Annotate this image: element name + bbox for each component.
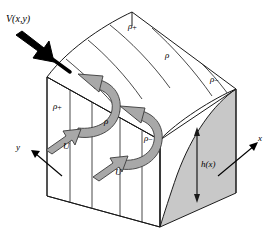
velocity-field-label: V(x,y) [6,14,30,24]
inflow-speed-label-2: U [115,168,122,177]
density-front-plus-subscript: + [57,103,62,112]
density-front-minus-subscript: − [148,135,153,144]
density-top-mid-label: ρ [165,51,169,60]
density-top-plus-label: ρ+ [128,22,137,32]
density-front-plus-label: ρ+ [53,102,62,112]
y-axis-label: y [16,143,20,152]
density-front-mid-label: ρ [104,117,108,126]
density-front-minus-label: ρ− [144,134,153,144]
inflow-speed-label-1: U [63,142,70,151]
x-axis-label: x [258,134,262,143]
velocity-field-arrow [16,31,70,72]
density-top-plus-subscript: + [132,23,137,32]
density-top-minus-label: ρ− [210,75,219,85]
density-top-minus-subscript: − [214,76,219,85]
diagram-canvas [0,0,274,238]
depth-label: h(x) [201,160,216,169]
figure-container: V(x,y) ρ+ ρ ρ− ρ+ ρ ρ− U U h(x) x y [0,0,274,238]
